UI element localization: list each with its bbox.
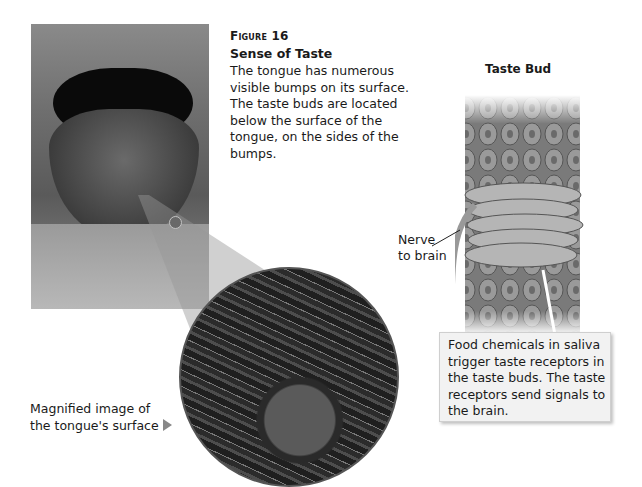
right-triangle-icon <box>163 419 172 431</box>
magnified-label-line1: Magnified image of <box>30 401 172 418</box>
nerve-label: Nerve to brain <box>398 232 447 264</box>
figure-title: Sense of Taste <box>230 46 332 61</box>
nerve-label-line1: Nerve <box>398 232 447 248</box>
taste-bud-diagram <box>455 95 585 335</box>
magnified-label: Magnified image of the tongue's surface <box>30 401 172 434</box>
taste-receptor-callout: Food chemicals in saliva trigger taste r… <box>439 332 611 422</box>
figure-label: Figure 16 <box>230 29 289 43</box>
magnified-surface-image <box>179 267 399 487</box>
taste-bud-title: Taste Bud <box>485 62 551 76</box>
magnified-label-line2: the tongue's surface <box>30 418 159 433</box>
nerve-label-line2: to brain <box>398 248 447 264</box>
figure-caption: The tongue has numerous visible bumps on… <box>230 63 410 163</box>
